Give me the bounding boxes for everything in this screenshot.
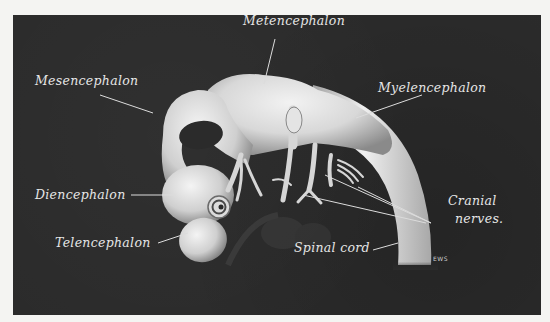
label-cranial-nerves-line2: nerves. [455,213,503,226]
label-cranial-nerves-line1: Cranial [448,195,497,208]
label-diencephalon: Diencephalon [35,189,126,202]
label-spinal-cord: Spinal cord [294,242,370,255]
label-myelencephalon: Myelencephalon [378,82,486,95]
illustration-plate: Metencephalon Mesencephalon Myelencephal… [13,15,541,315]
label-telencephalon: Telencephalon [55,237,151,250]
embryo-brain-illustration [13,15,541,315]
label-metencephalon: Metencephalon [243,15,345,28]
label-mesencephalon: Mesencephalon [35,75,138,88]
artist-signature: EWS [433,255,448,262]
optic-vesicle [208,196,230,218]
